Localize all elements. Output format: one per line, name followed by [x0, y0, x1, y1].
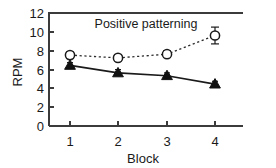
y-tick-label-8: 8: [37, 44, 44, 59]
y-tick-label-2: 2: [37, 100, 44, 115]
y-tick-label-12: 12: [30, 6, 44, 21]
series-filled-triangle: [65, 60, 221, 88]
x-tick-label-2: 2: [114, 134, 121, 149]
data-point-open-3: [162, 50, 171, 59]
x-axis-ticks: [70, 121, 215, 126]
data-point-open-2: [113, 53, 122, 62]
y-tick-label-0: 0: [37, 119, 44, 134]
x-axis-tick-labels: 1 2 3 4: [66, 134, 218, 149]
chart-figure: 0 2 4 6 8 10 12 1 2 3 4 Block RPM Positi…: [0, 0, 276, 168]
data-point-open-4: [210, 31, 219, 40]
y-tick-label-10: 10: [30, 25, 44, 40]
data-point-open-1: [65, 51, 74, 60]
y-axis-tick-labels: 0 2 4 6 8 10 12: [30, 6, 44, 134]
data-point-triangle-1: [65, 60, 76, 69]
y-axis-ticks: [49, 13, 54, 126]
y-axis-title: RPM: [10, 58, 25, 87]
chart-svg: 0 2 4 6 8 10 12 1 2 3 4 Block RPM Positi…: [0, 0, 276, 168]
series-filled-triangle-line: [70, 65, 215, 84]
series-open-circle: [65, 27, 219, 62]
series-open-circle-line: [70, 36, 215, 58]
plot-title: Positive patterning: [95, 17, 198, 31]
x-tick-label-1: 1: [66, 134, 73, 149]
x-tick-label-3: 3: [163, 134, 170, 149]
x-tick-label-4: 4: [211, 134, 218, 149]
x-axis-title: Block: [127, 151, 159, 166]
y-tick-label-4: 4: [37, 81, 44, 96]
y-tick-label-6: 6: [37, 63, 44, 78]
